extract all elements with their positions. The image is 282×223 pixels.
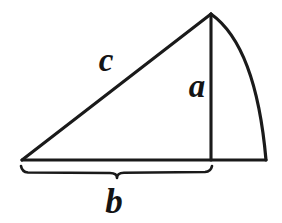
label-hypotenuse-c: c <box>99 44 114 77</box>
geometry-figure: c a b <box>0 0 282 223</box>
hypotenuse-line <box>22 14 211 160</box>
label-altitude-a: a <box>189 70 206 103</box>
figure-canvas <box>0 0 282 223</box>
arc-curve <box>211 14 266 160</box>
measure-brace <box>21 166 212 178</box>
label-base-b: b <box>105 184 123 219</box>
